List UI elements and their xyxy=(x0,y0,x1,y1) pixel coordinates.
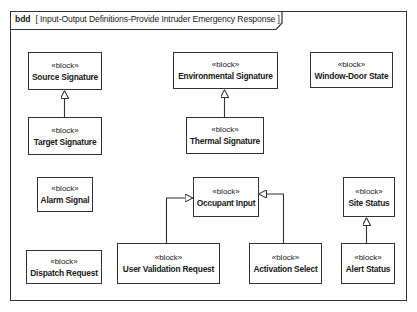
block-name: Alert Status xyxy=(346,263,391,275)
block-name: Source Signature xyxy=(32,71,98,83)
block-name: Site Status xyxy=(348,197,389,209)
block-alert-status[interactable]: «block» Alert Status xyxy=(341,243,395,284)
block-source-signature[interactable]: «block» Source Signature xyxy=(28,52,102,90)
block-occupant-input[interactable]: «block» Occupant Input xyxy=(193,177,259,217)
block-window-door-state[interactable]: «block» Window-Door State xyxy=(310,52,393,88)
block-stereotype: «block» xyxy=(50,256,78,267)
block-name: Environmental Signature xyxy=(178,70,273,82)
block-dispatch-request[interactable]: «block» Dispatch Request xyxy=(26,250,102,284)
block-site-status[interactable]: «block» Site Status xyxy=(343,177,395,217)
block-name: Thermal Signature xyxy=(190,135,260,147)
block-environmental-signature[interactable]: «block» Environmental Signature xyxy=(173,52,278,89)
block-activation-select[interactable]: «block» Activation Select xyxy=(249,243,322,284)
block-name: User Validation Request xyxy=(123,263,214,275)
block-name: Window-Door State xyxy=(315,70,389,82)
block-stereotype: «block» xyxy=(338,59,366,70)
block-name: Occupant Input xyxy=(197,197,256,209)
block-stereotype: «block» xyxy=(51,183,79,194)
block-stereotype: «block» xyxy=(272,252,300,263)
block-stereotype: «block» xyxy=(355,186,383,197)
block-stereotype: «block» xyxy=(51,60,79,71)
edge-uvr-to-occupant xyxy=(167,198,194,243)
block-user-validation-request[interactable]: «block» User Validation Request xyxy=(117,243,220,284)
block-stereotype: «block» xyxy=(212,59,240,70)
block-name: Alarm Signal xyxy=(41,194,90,206)
block-name: Target Signature xyxy=(34,136,97,148)
block-stereotype: «block» xyxy=(211,124,239,135)
block-name: Dispatch Request xyxy=(30,267,98,279)
block-stereotype: «block» xyxy=(354,252,382,263)
block-stereotype: «block» xyxy=(212,186,240,197)
block-thermal-signature[interactable]: «block» Thermal Signature xyxy=(186,117,264,154)
block-name: Activation Select xyxy=(253,263,317,275)
block-stereotype: «block» xyxy=(155,252,183,263)
edge-activation-to-occupant xyxy=(259,194,284,243)
block-stereotype: «block» xyxy=(51,125,79,136)
block-target-signature[interactable]: «block» Target Signature xyxy=(28,117,102,155)
block-alarm-signal[interactable]: «block» Alarm Signal xyxy=(37,177,93,212)
